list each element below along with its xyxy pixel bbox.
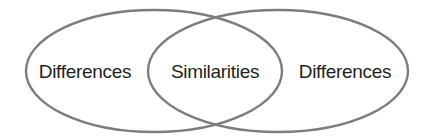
right-set-label: Differences: [299, 61, 391, 82]
intersection-label: Similarities: [171, 61, 259, 82]
left-set-label: Differences: [39, 61, 131, 82]
venn-diagram: Differences Similarities Differences: [0, 0, 428, 140]
